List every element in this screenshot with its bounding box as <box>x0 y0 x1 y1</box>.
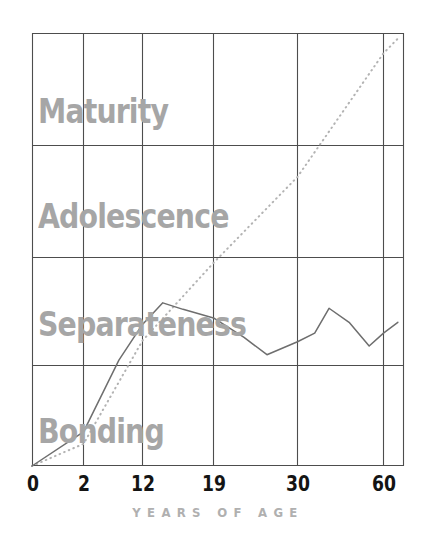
x-tick-label-2: 2 <box>75 472 93 496</box>
band-label-adolescence: Adolescence <box>38 197 229 236</box>
chart-plot-area <box>0 0 423 549</box>
x-tick-label-19: 19 <box>202 472 227 496</box>
x-tick-label-30: 30 <box>286 472 311 496</box>
band-label-bonding: Bonding <box>38 412 164 451</box>
band-label-separateness: Separateness <box>38 305 246 344</box>
band-label-maturity: Maturity <box>38 92 168 131</box>
x-tick-label-60: 60 <box>372 472 397 496</box>
x-axis-caption: YEARS OF AGE <box>51 505 386 520</box>
x-tick-label-12: 12 <box>131 472 156 496</box>
x-tick-label-0: 0 <box>24 472 42 496</box>
chart-figure: Maturity Adolescence Separateness Bondin… <box>0 0 423 549</box>
